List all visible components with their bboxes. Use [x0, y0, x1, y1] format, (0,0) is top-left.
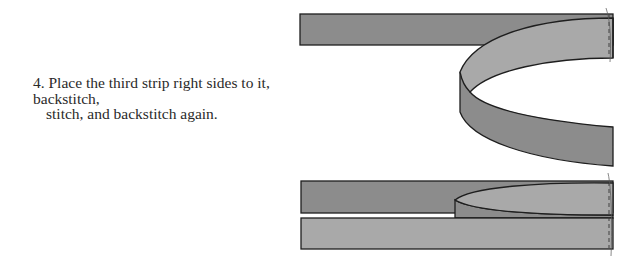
bottom-figure	[301, 173, 613, 256]
bottom-lower-strip	[301, 218, 613, 249]
top-figure	[300, 8, 613, 166]
sewing-diagram	[0, 0, 643, 264]
top-curl-underside	[460, 72, 613, 166]
